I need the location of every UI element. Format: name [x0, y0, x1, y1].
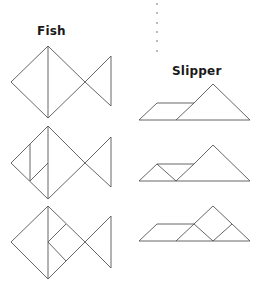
fish-figure-1	[11, 46, 111, 118]
fish-inner-line	[48, 224, 66, 242]
slipper-inner-line	[176, 164, 194, 181]
divider-dot	[156, 3, 158, 5]
divider-dot	[156, 40, 158, 42]
fish-figure-2	[11, 126, 111, 199]
divider-dot	[156, 31, 158, 33]
fish-inner-line	[30, 163, 48, 181]
slipper-outline	[139, 84, 250, 120]
slipper-inner-line	[194, 224, 213, 241]
fish-outline	[11, 206, 111, 279]
divider-dot	[156, 50, 158, 52]
dotted-divider	[156, 3, 158, 52]
divider-dot	[156, 22, 158, 24]
slipper-outline	[139, 206, 250, 241]
slipper-outline	[139, 145, 250, 181]
slipper-inner-line	[176, 103, 194, 120]
slipper-inner-line	[176, 224, 194, 241]
tangram-diagram	[0, 0, 263, 282]
fish-inner-line	[48, 242, 66, 261]
slipper-inner-line	[213, 224, 232, 241]
slipper-inner-line	[157, 164, 176, 181]
divider-dot	[156, 12, 158, 14]
slipper-figure-3	[139, 206, 250, 241]
fish-outline	[11, 46, 111, 118]
fish-figure-3	[11, 206, 111, 279]
slipper-figure-1	[139, 84, 250, 120]
fish-outline	[11, 126, 111, 199]
slipper-figure-2	[139, 145, 250, 181]
